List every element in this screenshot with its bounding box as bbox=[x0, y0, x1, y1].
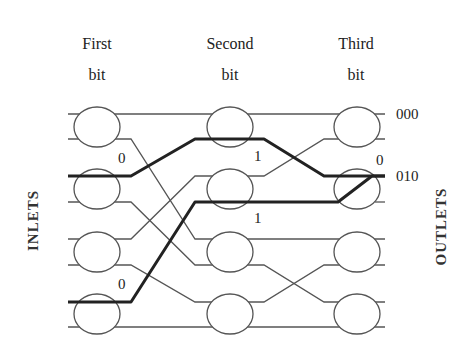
bit-label: 0 bbox=[376, 152, 384, 169]
switch-2-1 bbox=[207, 107, 253, 147]
switch-3-3 bbox=[334, 232, 380, 272]
stage-2-switches bbox=[203, 107, 258, 334]
bit-label: 0 bbox=[118, 276, 126, 293]
switch-1-4 bbox=[74, 294, 120, 334]
header-second-bit: Second bit bbox=[190, 35, 270, 84]
bit-label: 0 bbox=[118, 150, 126, 167]
switch-2-4 bbox=[207, 294, 253, 334]
header-first-bit: First bit bbox=[57, 35, 137, 84]
stage-2-3-wires bbox=[258, 114, 330, 327]
stage-3-switches bbox=[330, 107, 385, 334]
stage-1-switches bbox=[68, 107, 125, 334]
header-third-bit: Third bit bbox=[316, 35, 396, 84]
outlet-label-000: 000 bbox=[396, 106, 419, 123]
switch-1-1 bbox=[74, 107, 120, 147]
outlets-label: OUTLETS bbox=[433, 188, 450, 266]
outlet-label-010: 010 bbox=[396, 168, 419, 185]
bit-label: 1 bbox=[254, 210, 262, 227]
switch-1-3 bbox=[74, 232, 120, 272]
highlighted-paths bbox=[68, 139, 385, 302]
inlets-label: INLETS bbox=[25, 190, 42, 251]
switch-3-1 bbox=[334, 107, 380, 147]
switch-3-4 bbox=[334, 294, 380, 334]
switch-2-3 bbox=[207, 232, 253, 272]
bit-label: 1 bbox=[254, 148, 262, 165]
